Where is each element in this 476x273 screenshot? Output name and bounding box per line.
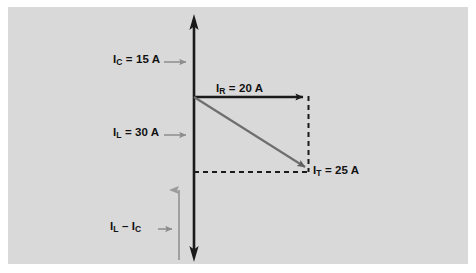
label-diff-operator: – I: [119, 220, 135, 232]
label-net-reactive-current: IL – IC: [110, 221, 141, 233]
label-diff-subscript2: C: [135, 224, 141, 234]
figure-root: IC = 15 A IL = 30 A IR = 20 A IT = 25 A …: [0, 0, 476, 273]
label-il-subscript: L: [116, 130, 121, 140]
label-il-value: = 30 A: [122, 126, 160, 138]
label-ir-value: = 20 A: [226, 82, 264, 94]
label-it-value: = 25 A: [322, 164, 360, 176]
vertical-axis: [189, 14, 198, 262]
phasor-diagram: [0, 0, 476, 273]
label-ic-value: = 15 A: [123, 53, 161, 65]
label-total-current: IT = 25 A: [313, 165, 359, 177]
label-diff-subscript: L: [113, 224, 118, 234]
label-ir-subscript: R: [219, 86, 225, 96]
label-ic-subscript: C: [116, 57, 122, 67]
label-inductive-current: IL = 30 A: [113, 127, 159, 139]
it-resultant-vector: [194, 97, 305, 167]
label-resistive-current: IR = 20 A: [216, 83, 263, 95]
label-capacitive-current: IC = 15 A: [113, 54, 160, 66]
label-it-subscript: T: [316, 168, 321, 178]
